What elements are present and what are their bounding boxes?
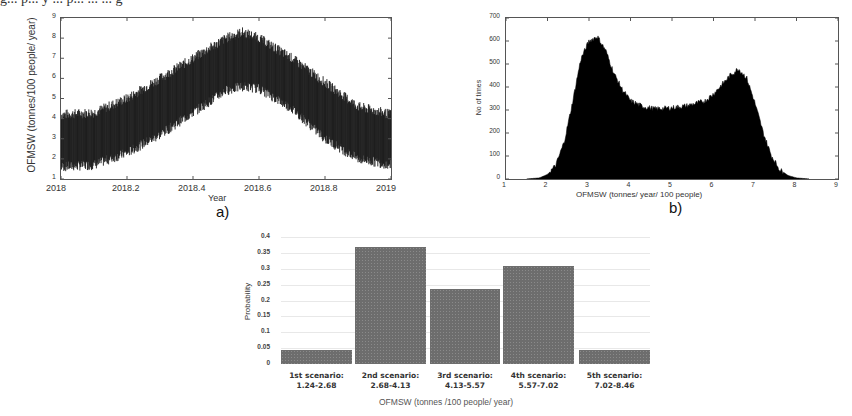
chart-b-histogram <box>506 18 838 179</box>
chart-b-x-axis-title: OFMSW (tonnes/ year/ 100 people) <box>576 190 702 199</box>
chart-c-y-tick-label: 0.2 <box>250 296 270 303</box>
chart-c-category-label: 5th scenario:7.02-8.46 <box>577 371 653 391</box>
chart-a-y-tick-label: 7 <box>36 52 56 59</box>
chart-a-panel-label: a) <box>216 203 229 220</box>
chart-b-x-tick-label: 8 <box>793 181 797 188</box>
chart-b-y-tick-label: 0 <box>480 173 500 180</box>
chart-c-y-tick-label: 0 <box>250 359 270 366</box>
chart-a-y-tick-label: 8 <box>36 32 56 39</box>
chart-a-x-tick-label: 2018 <box>46 183 66 193</box>
chart-c-category-label: 2nd scenario:2.68-4.13 <box>353 371 429 391</box>
chart-c-y-tick-label: 0.3 <box>250 264 270 271</box>
chart-a-x-tick-label: 2018.4 <box>178 183 206 193</box>
chart-b-x-tick-label: 3 <box>585 181 589 188</box>
chart-c-bar <box>503 266 574 364</box>
chart-a-y-axis-title: OFMSW (tonnes/100 people/ year) <box>26 23 37 173</box>
chart-c-y-tick-label: 0.05 <box>250 343 270 350</box>
chart-a-y-tick-label: 9 <box>36 12 56 19</box>
chart-b-y-tick-label: 500 <box>480 58 500 65</box>
chart-c-gridline <box>281 253 650 254</box>
chart-c-y-tick-label: 0.15 <box>250 311 270 318</box>
chart-b-x-tick-label: 6 <box>710 181 714 188</box>
chart-a-y-tick-label: 6 <box>36 72 56 79</box>
chart-b-y-tick-label: 200 <box>480 127 500 134</box>
chart-b-x-tick-label: 1 <box>502 181 506 188</box>
chart-a-y-tick-label: 4 <box>36 113 56 120</box>
chart-c-gridline <box>281 269 650 270</box>
chart-a-x-tick-label: 2018.2 <box>112 183 140 193</box>
chart-b-y-tick-label: 400 <box>480 81 500 88</box>
chart-b-y-tick-label: 700 <box>480 12 500 19</box>
chart-c-bar <box>281 350 352 364</box>
chart-a-y-tick-label: 2 <box>36 153 56 160</box>
chart-b-y-axis-title: No of times <box>475 68 482 128</box>
chart-b-panel-label: b) <box>669 199 682 216</box>
chart-b-plot-area <box>505 17 839 180</box>
chart-a-y-tick-label: 5 <box>36 93 56 100</box>
chart-c-bar <box>430 289 500 364</box>
chart-b-y-tick-label: 600 <box>480 35 500 42</box>
chart-c-bar <box>579 350 650 364</box>
chart-b-x-tick-label: 7 <box>751 181 755 188</box>
chart-a-x-tick-label: 2018.8 <box>310 183 338 193</box>
chart-b-x-tick-label: 4 <box>627 181 631 188</box>
chart-c-y-tick-label: 0.25 <box>250 280 270 287</box>
chart-c-gridline <box>281 237 650 238</box>
chart-c-category-label: 1st scenario:1.24-2.68 <box>279 371 355 391</box>
chart-b-y-tick-label: 300 <box>480 104 500 111</box>
chart-b-x-tick-label: 5 <box>668 181 672 188</box>
chart-c-x-axis-title: OFMSW (tonnes /100 people/ year) <box>379 397 513 407</box>
cropped-caption-text: g... p... y ... p... ... ... g <box>0 0 852 7</box>
chart-a-y-tick-label: 3 <box>36 133 56 140</box>
chart-c-y-axis-title: Probability <box>243 277 252 327</box>
chart-b-y-tick-label: 100 <box>480 150 500 157</box>
chart-c-y-tick-label: 0.1 <box>250 327 270 334</box>
chart-c-bar <box>355 247 426 364</box>
chart-c-gridline <box>281 285 650 286</box>
chart-b-x-tick-label: 9 <box>834 181 838 188</box>
chart-a-x-tick-label: 2019 <box>376 183 396 193</box>
chart-a-plot-area <box>60 17 392 180</box>
chart-a-x-axis-title: Year <box>208 193 226 203</box>
chart-c-y-tick-label: 0.35 <box>250 248 270 255</box>
chart-a-series <box>61 18 391 179</box>
chart-c-category-label: 4th scenario:5.57-7.02 <box>501 371 577 391</box>
chart-b-x-tick-label: 2 <box>544 181 548 188</box>
chart-c-category-label: 3rd scenario:4.13-5.57 <box>427 371 503 391</box>
chart-a-y-tick-label: 1 <box>36 173 56 180</box>
chart-a-x-tick-label: 2018.6 <box>244 183 272 193</box>
chart-c-y-tick-label: 0.4 <box>250 232 270 239</box>
